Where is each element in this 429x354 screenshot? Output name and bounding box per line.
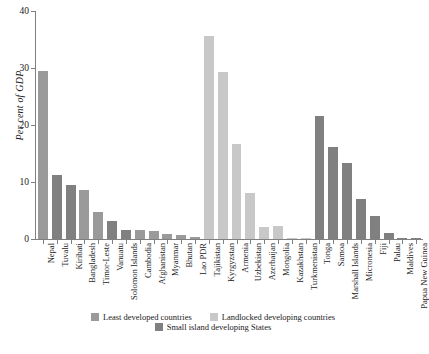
- legend-label: Small island developing States: [167, 322, 272, 332]
- bar: [342, 163, 352, 239]
- bar-column: [119, 11, 133, 239]
- x-tick-label-cell: Afghanistan: [147, 243, 161, 301]
- x-tick-label-cell: Bangladesh: [77, 243, 91, 301]
- bar: [162, 234, 172, 239]
- x-tick-label-cell: Kazakhstan: [285, 243, 299, 301]
- legend-item: Least developed countries: [91, 312, 192, 322]
- bar: [232, 144, 242, 239]
- y-axis-title: Per cent of GDP: [14, 41, 25, 171]
- bar-column: [299, 11, 313, 239]
- bar-column: [285, 11, 299, 239]
- bar-column: [188, 11, 202, 239]
- bar-column: [50, 11, 64, 239]
- bar-column: [368, 11, 382, 239]
- bar: [411, 238, 421, 239]
- bar-column: [160, 11, 174, 239]
- bar-column: [133, 11, 147, 239]
- x-tick-label-cell: Uzbekistan: [243, 243, 257, 301]
- legend-swatch: [210, 313, 218, 321]
- bar-column: [91, 11, 105, 239]
- y-tick-mark: [31, 125, 35, 126]
- x-tick-label-cell: Tonga: [313, 243, 327, 301]
- x-tick-label-cell: Bhutan: [174, 243, 188, 301]
- bar-column: [382, 11, 396, 239]
- bar: [384, 233, 394, 239]
- x-axis-labels: NepalTuvaluKiribatiBangladeshTimor-Leste…: [36, 243, 423, 301]
- bar: [218, 72, 228, 239]
- x-tick-label-cell: Nepal: [36, 243, 50, 301]
- y-tick-label: 40: [20, 6, 30, 16]
- bar: [397, 238, 407, 239]
- bar: [328, 147, 338, 239]
- legend-item: Small island developing States: [155, 322, 272, 332]
- x-tick-label-cell: Timor-Leste: [91, 243, 105, 301]
- bar-column: [271, 11, 285, 239]
- legend-label: Landlocked developing countries: [222, 312, 335, 322]
- bar: [176, 235, 186, 239]
- bar-column: [313, 11, 327, 239]
- bar: [287, 238, 297, 239]
- bar: [135, 230, 145, 239]
- bar-column: [340, 11, 354, 239]
- bar: [66, 185, 76, 239]
- bar: [273, 226, 283, 239]
- x-tick-label-cell: Micronesia: [354, 243, 368, 301]
- y-tick-label: 20: [20, 120, 30, 130]
- legend-row-1: Least developed countriesLandlocked deve…: [0, 312, 426, 322]
- bar-column: [216, 11, 230, 239]
- x-tick-label-cell: Lao PDR: [188, 243, 202, 301]
- bar-column: [105, 11, 119, 239]
- legend-row-2: Small island developing States: [0, 322, 426, 332]
- bar-column: [64, 11, 78, 239]
- bar-column: [174, 11, 188, 239]
- x-tick-label-cell: Kiribati: [64, 243, 78, 301]
- bar-column: [257, 11, 271, 239]
- x-tick-label-cell: Armenia: [230, 243, 244, 301]
- bar-column: [326, 11, 340, 239]
- bar: [121, 230, 131, 239]
- legend-label: Least developed countries: [103, 312, 192, 322]
- x-tick-label-cell: Maldives: [396, 243, 410, 301]
- legend-swatch: [155, 323, 163, 331]
- y-tick-label: 30: [20, 63, 30, 73]
- y-tick-mark: [31, 11, 35, 12]
- bar: [259, 227, 269, 239]
- bar-column: [36, 11, 50, 239]
- x-tick-label-cell: Marshall Islands: [340, 243, 354, 301]
- x-tick-label-cell: Azerbaijan: [257, 243, 271, 301]
- x-tick-label-cell: Solomon Islands: [119, 243, 133, 301]
- plot-area: 010203040: [35, 11, 423, 239]
- bar: [107, 221, 117, 239]
- legend-item: Landlocked developing countries: [210, 312, 335, 322]
- bar-column: [354, 11, 368, 239]
- x-tick-label-cell: Cambodia: [133, 243, 147, 301]
- bar: [315, 116, 325, 239]
- bar: [245, 193, 255, 239]
- x-tick-label-cell: Tajikistan: [202, 243, 216, 301]
- legend-swatch: [91, 313, 99, 321]
- bar-series-container: [36, 11, 423, 239]
- bar: [52, 175, 62, 239]
- y-tick-label: 0: [24, 234, 29, 244]
- bar-column: [202, 11, 216, 239]
- bar: [149, 231, 159, 239]
- bar: [370, 216, 380, 239]
- chart-legend: Least developed countriesLandlocked deve…: [0, 312, 426, 332]
- bar-column: [243, 11, 257, 239]
- x-tick-label-cell: Palau: [382, 243, 396, 301]
- x-tick-label-cell: Myanmar: [160, 243, 174, 301]
- bar-column: [77, 11, 91, 239]
- bar: [79, 190, 89, 239]
- bar-column: [396, 11, 410, 239]
- y-tick-mark: [31, 182, 35, 183]
- x-tick-label-cell: Mongolia: [271, 243, 285, 301]
- y-tick-label: 10: [20, 177, 30, 187]
- x-tick-label-cell: Kyrgyzstan: [216, 243, 230, 301]
- x-tick-label-cell: Tuvalu: [50, 243, 64, 301]
- y-tick-mark: [31, 239, 35, 240]
- bar-column: [230, 11, 244, 239]
- x-tick-label-cell: Fiji: [368, 243, 382, 301]
- x-tick-label-cell: Vanuatu: [105, 243, 119, 301]
- bar-column: [147, 11, 161, 239]
